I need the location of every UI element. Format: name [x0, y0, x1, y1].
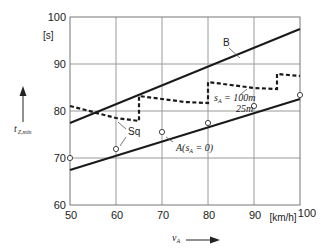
marker [297, 92, 302, 97]
x-tick: 50 [65, 209, 77, 221]
marker [159, 129, 164, 134]
x-axis-arrow-icon [186, 237, 220, 244]
label-b: B [223, 37, 230, 48]
x-tick: 60 [111, 209, 123, 221]
x-tick: 100 [298, 207, 316, 219]
y-tick: 100 [48, 11, 66, 23]
grid [70, 17, 300, 205]
label-25m: 25m [236, 103, 253, 114]
x-tick: 70 [157, 209, 169, 221]
label-a: A(sA = 0) [175, 142, 214, 154]
chart: 100 90 80 70 60 50 60 70 80 90 100 [km/h… [0, 0, 321, 252]
y-axis-arrow-icon [20, 86, 27, 122]
x-tick: 90 [249, 209, 261, 221]
x-tick: 80 [203, 209, 215, 221]
y-axis-label: tZ,min [14, 123, 32, 135]
marker [113, 146, 118, 151]
dashed-s100-line [70, 74, 300, 121]
x-unit-label: [km/h] [269, 212, 296, 223]
marker [67, 155, 72, 160]
y-tick-labels: 100 90 80 70 60 [48, 11, 66, 211]
leader-sq-2 [120, 137, 126, 146]
leader-sq-1 [118, 122, 126, 129]
label-sq: Sq [128, 126, 140, 137]
marker [205, 120, 210, 125]
y-tick: 80 [54, 105, 66, 117]
y-unit-label: [s] [43, 30, 54, 41]
y-tick: 70 [54, 152, 66, 164]
y-tick: 90 [54, 58, 66, 70]
x-axis-label: vA [172, 232, 180, 244]
